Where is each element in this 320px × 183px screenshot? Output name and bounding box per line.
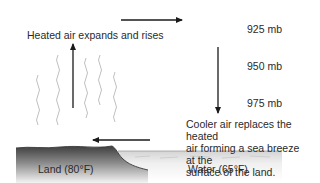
pressure-level-925: 925 mb: [247, 23, 282, 35]
heat-waves-icon: [37, 55, 117, 125]
water-label: Water (65°F): [188, 163, 248, 175]
pressure-level-950: 950 mb: [247, 60, 282, 72]
heated-air-label: Heated air expands and rises: [27, 29, 164, 41]
pressure-level-975: 975 mb: [247, 97, 282, 109]
land-label: Land (80°F): [38, 163, 94, 175]
